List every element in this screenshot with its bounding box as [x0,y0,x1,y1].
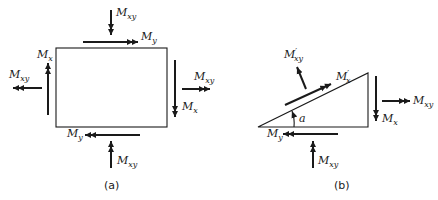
hyp-mxy-prime-label: M′xy [283,46,304,63]
bottom-mxy-label-b: Mxy [317,154,339,169]
angle-label: a [299,112,306,125]
moment-diagram: Mxy My Mx Mxy Mx Mxy My Mxy (a) a M′xy M… [0,0,438,200]
top-my-label: My [140,30,157,45]
hyp-mxy-prime-arrow [297,67,306,89]
right-mx-label-b: Mx [381,112,398,127]
plate-element [56,48,167,127]
hyp-mx-prime-label: M′x [335,68,351,85]
bottom-mxy-label: Mxy [116,154,138,169]
angle-arc [292,111,294,127]
bottom-my-label: My [66,127,83,142]
figure-b: a M′xy M′x Mx Mxy My Mxy (b) [258,46,434,192]
caption-a: (a) [104,179,119,192]
figure-a: Mxy My Mx Mxy Mx Mxy My Mxy (a) [8,6,215,192]
right-mxy-label: Mxy [193,70,215,85]
top-mxy-label: Mxy [115,6,137,21]
left-mx-label: Mx [36,48,53,63]
caption-b: (b) [334,179,350,192]
right-mx-label: Mx [181,100,198,115]
triangular-element [258,73,368,127]
left-mxy-label: Mxy [8,68,30,83]
bottom-my-label-b: My [266,127,283,142]
right-mxy-label-b: Mxy [412,94,434,109]
